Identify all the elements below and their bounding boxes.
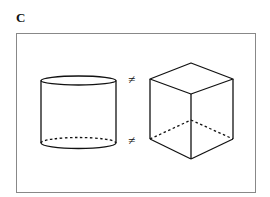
not-equal-symbol-top: ≠ [128, 72, 135, 88]
not-equal-symbol-bottom: ≠ [128, 133, 135, 149]
figure-drawing [0, 0, 270, 197]
cube [150, 63, 233, 159]
cylinder [41, 76, 116, 149]
